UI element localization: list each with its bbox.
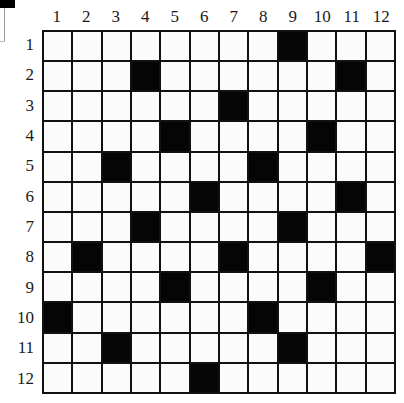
white-cell[interactable]: [249, 122, 276, 150]
white-cell[interactable]: [337, 303, 364, 331]
white-cell[interactable]: [191, 303, 218, 331]
white-cell[interactable]: [308, 364, 335, 392]
white-cell[interactable]: [220, 122, 247, 150]
white-cell[interactable]: [161, 153, 188, 181]
white-cell[interactable]: [249, 364, 276, 392]
white-cell[interactable]: [161, 243, 188, 271]
white-cell[interactable]: [308, 32, 335, 60]
white-cell[interactable]: [279, 273, 306, 301]
white-cell[interactable]: [44, 243, 71, 271]
white-cell[interactable]: [132, 122, 159, 150]
white-cell[interactable]: [191, 92, 218, 120]
white-cell[interactable]: [337, 32, 364, 60]
white-cell[interactable]: [249, 183, 276, 211]
white-cell[interactable]: [367, 364, 394, 392]
white-cell[interactable]: [308, 153, 335, 181]
white-cell[interactable]: [249, 243, 276, 271]
white-cell[interactable]: [103, 243, 130, 271]
white-cell[interactable]: [337, 364, 364, 392]
white-cell[interactable]: [308, 183, 335, 211]
white-cell[interactable]: [279, 243, 306, 271]
white-cell[interactable]: [367, 32, 394, 60]
white-cell[interactable]: [367, 273, 394, 301]
white-cell[interactable]: [73, 213, 100, 241]
white-cell[interactable]: [161, 32, 188, 60]
white-cell[interactable]: [44, 273, 71, 301]
white-cell[interactable]: [103, 273, 130, 301]
white-cell[interactable]: [44, 334, 71, 362]
white-cell[interactable]: [337, 334, 364, 362]
white-cell[interactable]: [337, 122, 364, 150]
white-cell[interactable]: [103, 62, 130, 90]
white-cell[interactable]: [161, 303, 188, 331]
white-cell[interactable]: [191, 243, 218, 271]
white-cell[interactable]: [367, 183, 394, 211]
white-cell[interactable]: [161, 364, 188, 392]
white-cell[interactable]: [220, 213, 247, 241]
white-cell[interactable]: [308, 62, 335, 90]
white-cell[interactable]: [132, 364, 159, 392]
white-cell[interactable]: [220, 364, 247, 392]
white-cell[interactable]: [44, 153, 71, 181]
white-cell[interactable]: [220, 303, 247, 331]
white-cell[interactable]: [44, 183, 71, 211]
white-cell[interactable]: [249, 334, 276, 362]
white-cell[interactable]: [73, 364, 100, 392]
white-cell[interactable]: [367, 213, 394, 241]
white-cell[interactable]: [367, 303, 394, 331]
white-cell[interactable]: [249, 62, 276, 90]
white-cell[interactable]: [132, 273, 159, 301]
white-cell[interactable]: [103, 183, 130, 211]
white-cell[interactable]: [44, 62, 71, 90]
white-cell[interactable]: [308, 243, 335, 271]
white-cell[interactable]: [191, 213, 218, 241]
white-cell[interactable]: [103, 122, 130, 150]
white-cell[interactable]: [249, 273, 276, 301]
white-cell[interactable]: [132, 334, 159, 362]
white-cell[interactable]: [367, 153, 394, 181]
white-cell[interactable]: [73, 62, 100, 90]
white-cell[interactable]: [279, 303, 306, 331]
white-cell[interactable]: [132, 243, 159, 271]
white-cell[interactable]: [279, 122, 306, 150]
white-cell[interactable]: [279, 153, 306, 181]
white-cell[interactable]: [73, 303, 100, 331]
white-cell[interactable]: [73, 153, 100, 181]
white-cell[interactable]: [44, 122, 71, 150]
white-cell[interactable]: [220, 273, 247, 301]
white-cell[interactable]: [73, 122, 100, 150]
white-cell[interactable]: [161, 213, 188, 241]
white-cell[interactable]: [337, 273, 364, 301]
white-cell[interactable]: [44, 92, 71, 120]
white-cell[interactable]: [191, 273, 218, 301]
white-cell[interactable]: [73, 273, 100, 301]
white-cell[interactable]: [161, 62, 188, 90]
white-cell[interactable]: [249, 92, 276, 120]
white-cell[interactable]: [308, 303, 335, 331]
white-cell[interactable]: [337, 92, 364, 120]
white-cell[interactable]: [103, 303, 130, 331]
white-cell[interactable]: [132, 153, 159, 181]
white-cell[interactable]: [73, 32, 100, 60]
white-cell[interactable]: [132, 303, 159, 331]
white-cell[interactable]: [367, 62, 394, 90]
white-cell[interactable]: [308, 334, 335, 362]
white-cell[interactable]: [191, 334, 218, 362]
white-cell[interactable]: [279, 62, 306, 90]
white-cell[interactable]: [103, 213, 130, 241]
white-cell[interactable]: [103, 32, 130, 60]
white-cell[interactable]: [132, 92, 159, 120]
white-cell[interactable]: [44, 213, 71, 241]
white-cell[interactable]: [337, 243, 364, 271]
white-cell[interactable]: [249, 32, 276, 60]
white-cell[interactable]: [44, 32, 71, 60]
white-cell[interactable]: [367, 92, 394, 120]
white-cell[interactable]: [220, 334, 247, 362]
white-cell[interactable]: [367, 122, 394, 150]
white-cell[interactable]: [73, 183, 100, 211]
white-cell[interactable]: [191, 62, 218, 90]
white-cell[interactable]: [161, 92, 188, 120]
white-cell[interactable]: [161, 334, 188, 362]
white-cell[interactable]: [220, 32, 247, 60]
white-cell[interactable]: [103, 92, 130, 120]
